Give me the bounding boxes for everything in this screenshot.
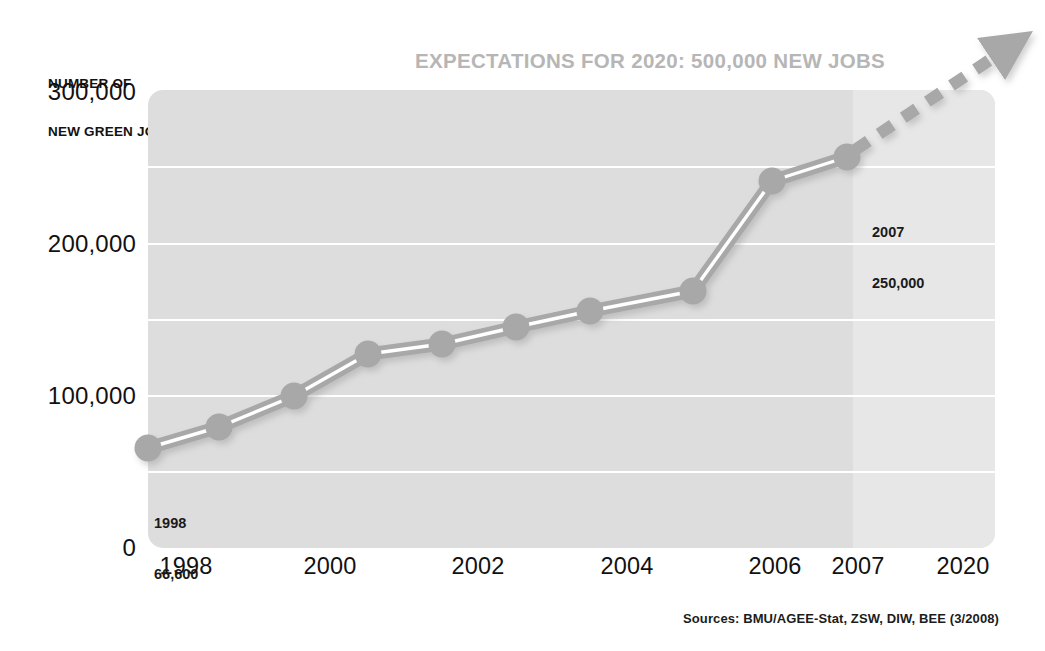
y-tick-100000: 100,000 [48, 382, 136, 410]
gridline-200000 [148, 243, 995, 245]
annotation-2007-value: 250,000 [872, 275, 924, 292]
x-tick-2006: 2006 [748, 553, 801, 580]
chart-title: EXPECTATIONS FOR 2020: 500,000 NEW JOBS [415, 49, 885, 73]
annotation-2007: 2007 250,000 [872, 190, 924, 326]
gridline-50000 [148, 471, 995, 473]
y-tick-200000: 200,000 [48, 230, 136, 258]
x-tick-2002: 2002 [451, 553, 504, 580]
green-jobs-chart: NUMBER OF NEW GREEN JOBS EXPECTATIONS FO… [0, 0, 1045, 651]
x-tick-2000: 2000 [303, 553, 356, 580]
y-tick-300000: 300,000 [48, 78, 136, 106]
annotation-1998: 1998 66,600 [154, 481, 198, 617]
gridline-250000 [148, 166, 995, 168]
annotation-1998-value: 66,600 [154, 566, 198, 583]
gridline-100000 [148, 395, 995, 397]
source-note: Sources: BMU/AGEE-Stat, ZSW, DIW, BEE (3… [683, 611, 999, 626]
x-tick-2007: 2007 [831, 553, 884, 580]
gridline-150000 [148, 319, 995, 321]
plot-area [148, 90, 995, 548]
x-tick-2004: 2004 [600, 553, 653, 580]
x-tick-2020: 2020 [936, 553, 989, 580]
annotation-2007-year: 2007 [872, 224, 924, 241]
annotation-1998-year: 1998 [154, 515, 198, 532]
